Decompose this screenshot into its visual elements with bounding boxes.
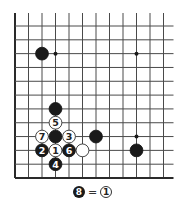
caption-black-stone: 8 — [73, 186, 85, 198]
move-number: 4 — [52, 159, 59, 170]
black-stone: 2 — [36, 144, 49, 157]
move-number: 3 — [66, 131, 73, 142]
black-stone — [90, 130, 103, 143]
move-number: 1 — [52, 145, 59, 156]
black-stone — [49, 103, 62, 116]
move-caption: 8 = 1 — [0, 184, 185, 200]
black-stone: 6 — [63, 144, 76, 157]
black-stone — [49, 130, 62, 143]
white-stone — [76, 144, 89, 157]
star-point — [135, 52, 139, 56]
caption-equals: = — [88, 186, 97, 199]
caption-white-stone: 1 — [100, 186, 112, 198]
black-stone: 4 — [49, 158, 62, 171]
black-stone — [36, 47, 49, 60]
star-point — [135, 135, 139, 139]
move-number: 5 — [52, 117, 59, 128]
move-number: 6 — [66, 145, 73, 156]
white-stone: 7 — [36, 130, 49, 143]
move-number: 2 — [39, 145, 46, 156]
black-stone — [130, 144, 143, 157]
go-board-diagram: 5732164 — [0, 0, 185, 185]
move-number: 7 — [39, 131, 46, 142]
star-point — [54, 52, 58, 56]
white-stone: 1 — [49, 144, 62, 157]
white-stone: 3 — [63, 130, 76, 143]
white-stone: 5 — [49, 116, 62, 129]
